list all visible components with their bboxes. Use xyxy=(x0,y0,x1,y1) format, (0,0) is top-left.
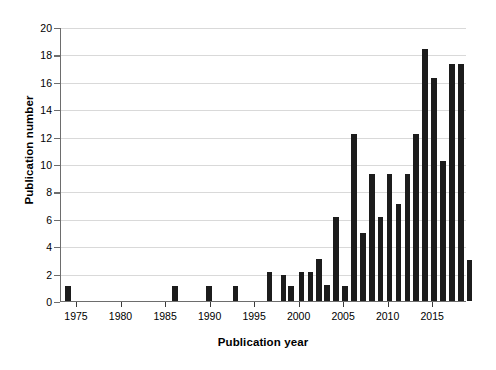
x-axis-tick-label: 1985 xyxy=(140,310,190,322)
x-axis-title: Publication year xyxy=(60,336,466,348)
bar xyxy=(206,286,212,301)
bar xyxy=(396,204,402,301)
bar xyxy=(369,174,375,301)
bar xyxy=(324,285,330,301)
bar xyxy=(440,161,446,301)
bar xyxy=(342,286,348,301)
y-axis-tick-label: 14 xyxy=(12,105,52,115)
bar xyxy=(405,174,411,301)
x-axis-tick-label: 1980 xyxy=(96,310,146,322)
bar xyxy=(333,217,339,301)
y-axis-tick-label: 20 xyxy=(12,23,52,33)
y-axis-tick-label: 2 xyxy=(12,270,52,280)
x-axis-tick-mark xyxy=(76,302,77,307)
y-axis-tick-label: 8 xyxy=(12,187,52,197)
bar xyxy=(360,233,366,302)
x-axis-tick-mark xyxy=(343,302,344,307)
x-axis-tick-mark xyxy=(432,302,433,307)
bar xyxy=(233,286,239,301)
bar xyxy=(172,286,178,301)
bar xyxy=(422,49,428,301)
x-axis-tick-mark xyxy=(210,302,211,307)
gridline xyxy=(61,55,466,56)
bar xyxy=(458,64,464,301)
y-axis-tick-label: 4 xyxy=(12,242,52,252)
bar xyxy=(65,286,71,301)
bar xyxy=(449,64,455,301)
x-axis-tick-label: 2005 xyxy=(318,310,368,322)
y-axis-tick-label: 16 xyxy=(12,78,52,88)
y-axis-tick-label: 0 xyxy=(12,297,52,307)
y-axis-tick-label: 12 xyxy=(12,133,52,143)
bar xyxy=(467,260,473,301)
bar xyxy=(413,134,419,301)
gridline xyxy=(61,110,466,111)
plot-area xyxy=(60,28,466,302)
x-axis-tick-label: 1975 xyxy=(51,310,101,322)
y-axis-tick-label: 18 xyxy=(12,50,52,60)
bar xyxy=(378,217,384,301)
x-axis-tick-label: 2015 xyxy=(407,310,457,322)
y-axis-tick-label: 10 xyxy=(12,160,52,170)
bar xyxy=(431,78,437,301)
y-axis-tick-mark xyxy=(54,302,60,303)
gridline xyxy=(61,28,466,29)
y-axis-tick-label: 6 xyxy=(12,215,52,225)
x-axis-tick-label: 2000 xyxy=(274,310,324,322)
bar xyxy=(351,134,357,301)
x-axis-tick-label: 1995 xyxy=(229,310,279,322)
bar xyxy=(387,174,393,301)
bar xyxy=(267,272,273,301)
y-axis-title: Publication number xyxy=(18,0,40,300)
x-axis-tick-label: 2010 xyxy=(363,310,413,322)
x-axis-tick-mark xyxy=(388,302,389,307)
publication-bar-chart: Publication number 02468101214161820 197… xyxy=(0,0,496,370)
bar xyxy=(288,286,294,301)
x-axis-tick-mark xyxy=(165,302,166,307)
x-axis-tick-mark xyxy=(254,302,255,307)
gridline xyxy=(61,138,466,139)
bar xyxy=(281,275,287,301)
gridline xyxy=(61,83,466,84)
x-axis-tick-mark xyxy=(299,302,300,307)
bar xyxy=(299,272,305,301)
bar xyxy=(316,259,322,301)
x-axis-tick-mark xyxy=(121,302,122,307)
x-axis-tick-label: 1990 xyxy=(185,310,235,322)
bar xyxy=(308,272,314,301)
gridline xyxy=(61,165,466,166)
